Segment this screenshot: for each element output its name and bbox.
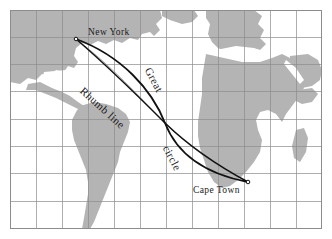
city-label-new-york: New York [88, 27, 130, 37]
city-label-cape-town: Cape Town [193, 185, 240, 195]
world-map [10, 10, 322, 229]
map-figure: New York Cape Town Rhumb line Great circ… [0, 0, 332, 239]
endpoint-marker-new-york [74, 37, 78, 41]
map-canvas [10, 10, 322, 229]
endpoint-marker-cape-town [246, 180, 250, 184]
